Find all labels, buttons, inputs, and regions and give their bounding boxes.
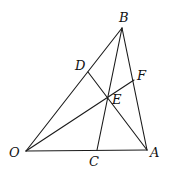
segment-of [26, 80, 134, 151]
label-point-d: D [74, 58, 86, 73]
geometry-diagram: O A B C D E F [0, 0, 170, 173]
label-point-o: O [9, 145, 20, 160]
labels-group: O A B C D E F [9, 10, 159, 169]
label-point-b: B [118, 10, 129, 25]
label-point-f: F [136, 68, 147, 83]
segment-ba [122, 28, 147, 150]
label-point-e: E [111, 92, 122, 107]
segment-da [88, 72, 147, 150]
segment-oa [26, 150, 147, 151]
label-point-a: A [149, 145, 159, 160]
segments-group [26, 28, 147, 151]
label-point-c: C [89, 154, 99, 169]
segment-ob [26, 28, 122, 151]
